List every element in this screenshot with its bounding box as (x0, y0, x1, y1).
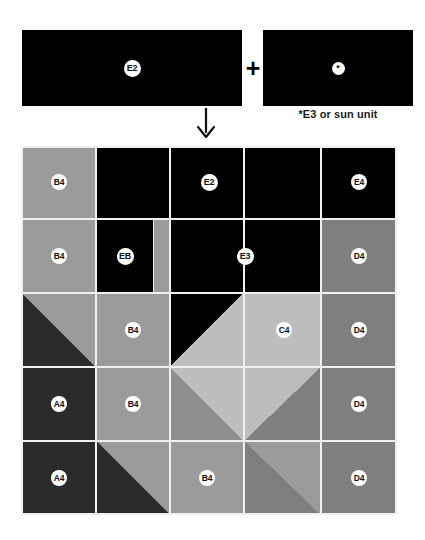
patch-label-r3c5: D4 (351, 322, 367, 338)
patch-label-e4: E4 (351, 174, 367, 190)
patch-label-r3c2: B4 (125, 322, 141, 338)
patch-label-eb: EB (117, 248, 134, 265)
patch-eb-sliver (154, 220, 169, 292)
patch-label-r3c4: C4 (276, 322, 292, 338)
diagram-canvas: E2 + * *E3 or sun unit (0, 0, 425, 540)
down-arrow-icon (188, 107, 224, 141)
patch-label-e3: E3 (237, 248, 254, 265)
patch-label-r2c1: B4 (51, 248, 67, 264)
patch-label-r4c1: A4 (51, 396, 67, 412)
patch-label-e2: E2 (201, 174, 218, 191)
quilt-block: B4 E2 E4 B4 EB E3 D4 B4 C4 D4 A4 B4 D4 A… (21, 146, 397, 515)
e2-unit-label: E2 (124, 60, 141, 77)
patch-label-r1c1: B4 (51, 174, 67, 190)
patch-label-r4c2: B4 (125, 396, 141, 412)
patch-label-r5c3: B4 (199, 470, 215, 486)
patch-label-r2c5: D4 (351, 248, 367, 264)
top-units-row: E2 + * *E3 or sun unit (0, 0, 425, 140)
e3-sun-unit: * (263, 30, 413, 106)
patch-label-r4c5: D4 (351, 396, 367, 412)
patch-label-r5c5: D4 (351, 470, 367, 486)
sun-unit-asterisk-label: * (332, 62, 345, 75)
e2-unit: E2 (22, 30, 242, 106)
plus-operator: + (242, 53, 264, 83)
patch-label-r5c1: A4 (51, 470, 67, 486)
sun-unit-footnote: *E3 or sun unit (263, 108, 413, 120)
